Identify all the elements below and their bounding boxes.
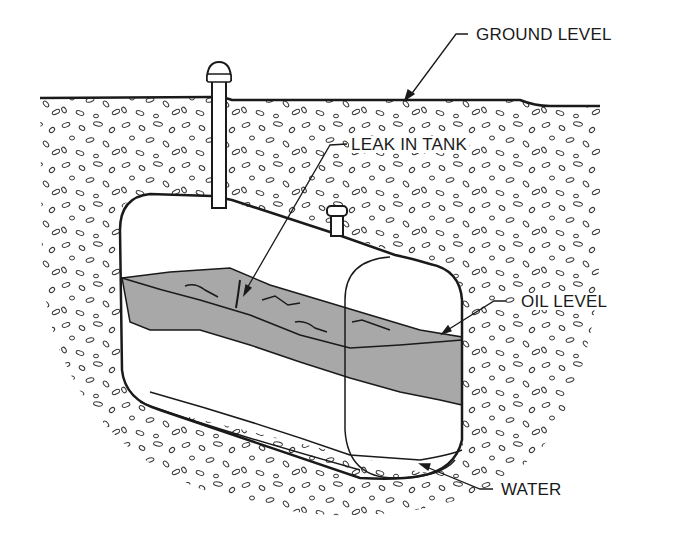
fill-cap — [327, 206, 347, 236]
leak-in-tank-label: LEAK IN TANK — [349, 136, 469, 153]
oil-level-label: OIL LEVEL — [519, 293, 609, 310]
ground-level-label: GROUND LEVEL — [476, 26, 612, 43]
tank-diagram — [0, 0, 695, 539]
ground-level-leader — [410, 34, 468, 96]
water-label: WATER — [499, 481, 564, 498]
